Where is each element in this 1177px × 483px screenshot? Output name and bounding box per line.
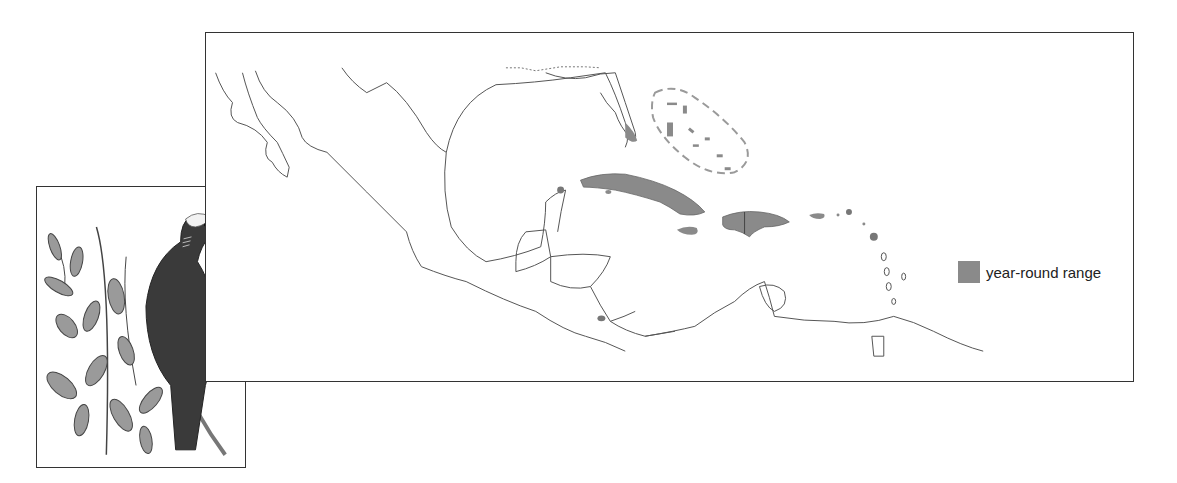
range-hispaniola <box>723 212 790 237</box>
range-map: year-round range <box>205 32 1134 382</box>
map-canvas <box>206 33 1133 381</box>
map-legend: year-round range <box>958 261 1101 283</box>
range-cuba <box>581 174 705 215</box>
range-puerto-rico <box>809 213 824 219</box>
florida-coast <box>546 73 636 139</box>
us-border <box>506 67 600 71</box>
range-virgin-islands <box>846 209 852 215</box>
coastlines <box>216 68 984 356</box>
legend-swatch-year-round <box>958 261 980 283</box>
range-cozumel <box>557 187 564 194</box>
range-bahamas <box>667 103 731 171</box>
range-isle-of-youth <box>605 190 611 194</box>
range-antigua <box>870 233 878 241</box>
bahamas-dashed-outline <box>652 89 748 174</box>
range-jamaica <box>677 227 698 235</box>
range-panama-costa-rica <box>597 315 605 321</box>
legend-label-year-round: year-round range <box>986 264 1101 281</box>
